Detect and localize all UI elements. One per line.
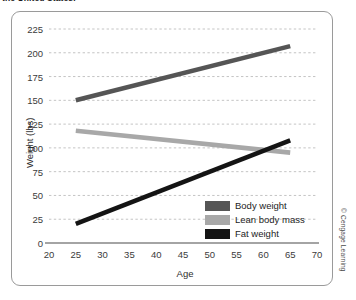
x-axis-tick-label: 35 [124,249,135,260]
x-axis-tick-label: 20 [44,249,55,260]
y-axis-tick-label: 0 [5,238,43,249]
y-axis-title: Weight (lbs) [24,117,35,168]
x-axis-tick-label: 40 [151,249,162,260]
legend-label: Body weight [235,200,287,211]
legend-swatch [205,215,230,225]
legend-swatch [205,201,230,211]
series-line-1 [76,46,290,100]
data-series [76,46,290,224]
copyright-credit: © Cengage Learning [340,208,347,272]
chart-legend: Body weightLean body massFat weight [205,199,305,241]
legend-swatch [205,229,230,239]
legend-item: Body weight [205,199,305,212]
y-axis-tick-label: 150 [5,95,43,106]
legend-item: Fat weight [205,227,305,240]
gridlines [49,29,317,219]
y-axis-tick-label: 200 [5,47,43,58]
x-axis-tick-label: 25 [71,249,82,260]
x-axis-tick-label: 60 [258,249,269,260]
legend-label: Lean body mass [235,214,305,225]
y-axis-tick-label: 25 [5,214,43,225]
x-axis-tick-label: 50 [205,249,216,260]
legend-label: Fat weight [235,228,279,239]
y-axis-tick-label: 175 [5,71,43,82]
x-axis-tick-label: 70 [312,249,323,260]
x-axis-tick-label: 55 [231,249,242,260]
x-axis-title: Age [177,268,194,279]
x-axis-tick-label: 45 [178,249,189,260]
y-axis-tick-label: 225 [5,24,43,35]
series-line-2 [76,131,290,153]
y-axis-tick-label: 50 [5,190,43,201]
x-axis-tick-label: 30 [97,249,108,260]
legend-item: Lean body mass [205,213,305,226]
x-axis-tick-label: 65 [285,249,296,260]
